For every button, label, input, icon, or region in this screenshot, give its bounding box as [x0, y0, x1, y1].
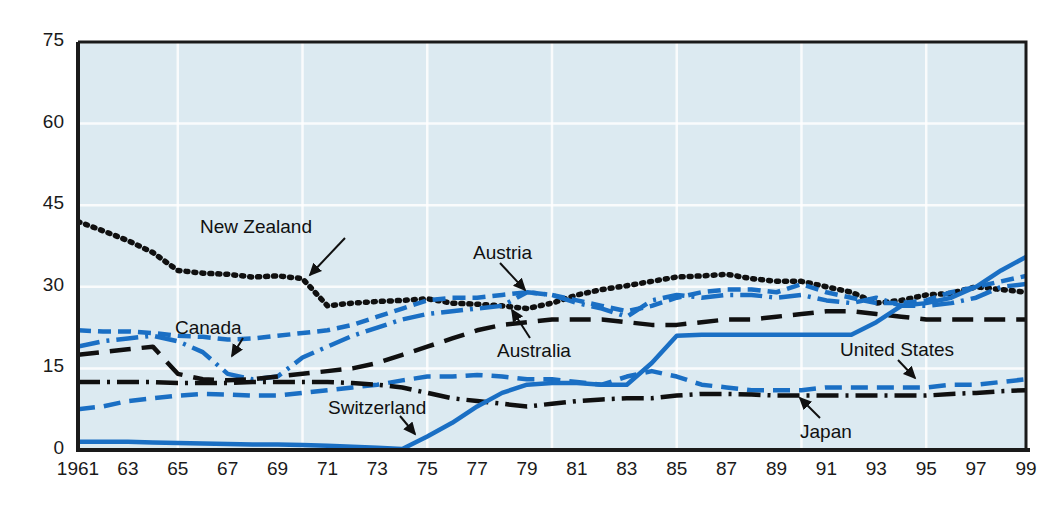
chart-figure: 01530456075 1961636567697173757779818385…: [0, 0, 1059, 507]
annotation-label-united-states: United States: [840, 339, 954, 361]
annotation-label-new-zealand: New Zealand: [200, 216, 312, 238]
annotation-label-japan: Japan: [800, 421, 852, 443]
annotation-label-canada: Canada: [175, 317, 242, 339]
annotation-label-australia: Australia: [497, 340, 571, 362]
annotation-label-austria: Austria: [473, 242, 532, 264]
annotation-label-switzerland: Switzerland: [328, 397, 426, 419]
series-annotations: New ZealandCanadaAustriaAustraliaSwitzer…: [0, 0, 1059, 507]
